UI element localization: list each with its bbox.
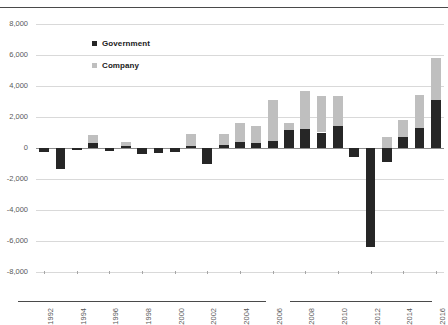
bar-group <box>398 24 408 272</box>
bar-segment-government <box>88 143 98 148</box>
x-axis-tick-label: 2016 <box>439 308 447 325</box>
y-axis-tick-label: 6,000 <box>0 51 28 59</box>
x-axis-tick-mark <box>142 271 143 274</box>
bar-group <box>170 24 180 272</box>
bar-group <box>300 24 310 272</box>
bar-segment-government <box>349 148 359 157</box>
bar-segment-government <box>268 141 278 148</box>
bar-group <box>366 24 376 272</box>
x-axis: 1992199419961998200020022004200620082010… <box>36 274 444 312</box>
x-axis-tick-mark <box>175 271 176 274</box>
x-axis-tick-label: 2010 <box>341 308 349 325</box>
x-axis-tick-label: 2002 <box>210 308 218 325</box>
y-axis-tick-label: 8,000 <box>0 20 28 28</box>
bar-segment-company <box>88 135 98 144</box>
x-axis-tick-label: 2000 <box>178 308 186 325</box>
y-axis-tick-label: -4,000 <box>0 206 28 214</box>
bar-segment-company <box>251 126 261 143</box>
x-axis-tick-mark <box>436 271 437 274</box>
x-axis-tick-mark <box>77 271 78 274</box>
top-divider <box>0 7 448 8</box>
x-axis-tick-mark <box>44 271 45 274</box>
bar-group <box>39 24 49 272</box>
bar-segment-government <box>333 126 343 148</box>
x-axis-tick-label: 1998 <box>145 308 153 325</box>
bar-segment-government <box>202 148 212 164</box>
bar-segment-company <box>415 95 425 128</box>
x-axis-tick-mark <box>240 271 241 274</box>
bar-group <box>251 24 261 272</box>
x-axis-tick-label: 1994 <box>80 308 88 325</box>
bar-segment-government <box>105 148 115 151</box>
x-axis-tick-mark <box>207 271 208 274</box>
bar-segment-company <box>186 134 196 146</box>
bar-segment-government <box>121 146 131 148</box>
bar-segment-company <box>431 58 441 100</box>
bar-segment-company <box>121 142 131 146</box>
bar-segment-government <box>251 143 261 148</box>
bar-segment-government <box>300 129 310 148</box>
bar-group <box>284 24 294 272</box>
legend-swatch-icon-company <box>92 63 97 68</box>
x-axis-tick-mark <box>403 271 404 274</box>
bar-group <box>415 24 425 272</box>
bar-segment-government <box>366 148 376 247</box>
bar-segment-government <box>235 142 245 148</box>
bar-segment-government <box>186 146 196 148</box>
y-axis-tick-label: -8,000 <box>0 268 28 276</box>
bar-segment-government <box>382 148 392 162</box>
bar-group <box>333 24 343 272</box>
bar-group <box>186 24 196 272</box>
chart-legend: Government Company <box>92 36 150 72</box>
bar-segment-company <box>268 100 278 142</box>
bar-group <box>382 24 392 272</box>
bar-segment-government <box>398 137 408 148</box>
bar-segment-government <box>415 128 425 148</box>
x-axis-tick-mark <box>371 271 372 274</box>
y-axis-tick-label: -6,000 <box>0 237 28 245</box>
bottom-divider-left <box>18 301 266 302</box>
y-axis-tick-label: 0 <box>0 144 28 152</box>
y-axis-tick-label: 2,000 <box>0 113 28 121</box>
y-axis-tick-label: -2,000 <box>0 175 28 183</box>
bar-segment-government <box>219 145 229 148</box>
y-axis-tick-label: 4,000 <box>0 82 28 90</box>
bar-segment-company <box>300 91 310 129</box>
bottom-divider-right <box>290 301 432 302</box>
x-axis-tick-mark <box>338 271 339 274</box>
bar-group <box>154 24 164 272</box>
bar-segment-government <box>317 133 327 149</box>
bar-segment-government <box>154 148 164 153</box>
x-axis-tick-label: 2014 <box>406 308 414 325</box>
bar-segment-company <box>219 134 229 145</box>
chart-title-fragment <box>0 0 448 2</box>
bar-segment-company <box>235 123 245 142</box>
legend-label-government: Government <box>102 39 150 48</box>
x-axis-tick-mark <box>109 271 110 274</box>
bar-group <box>56 24 66 272</box>
bar-group <box>317 24 327 272</box>
bar-group <box>349 24 359 272</box>
bar-segment-government <box>431 100 441 148</box>
x-axis-tick-label: 2004 <box>243 308 251 325</box>
bar-group <box>202 24 212 272</box>
bar-group <box>72 24 82 272</box>
bar-segment-government <box>137 148 147 154</box>
x-axis-tick-label: 2008 <box>308 308 316 325</box>
x-axis-tick-mark <box>273 271 274 274</box>
x-axis-tick-label: 2006 <box>276 308 284 325</box>
bar-group <box>431 24 441 272</box>
legend-item-company: Company <box>92 58 150 72</box>
bar-segment-company <box>317 96 327 132</box>
bar-group <box>219 24 229 272</box>
bar-segment-company <box>284 123 294 130</box>
bar-segment-company <box>398 120 408 137</box>
x-axis-tick-mark <box>305 271 306 274</box>
bar-group <box>235 24 245 272</box>
bar-group <box>268 24 278 272</box>
bar-segment-government <box>170 148 180 152</box>
bar-segment-government <box>56 148 66 169</box>
x-axis-tick-label: 1996 <box>112 308 120 325</box>
legend-label-company: Company <box>102 61 139 70</box>
